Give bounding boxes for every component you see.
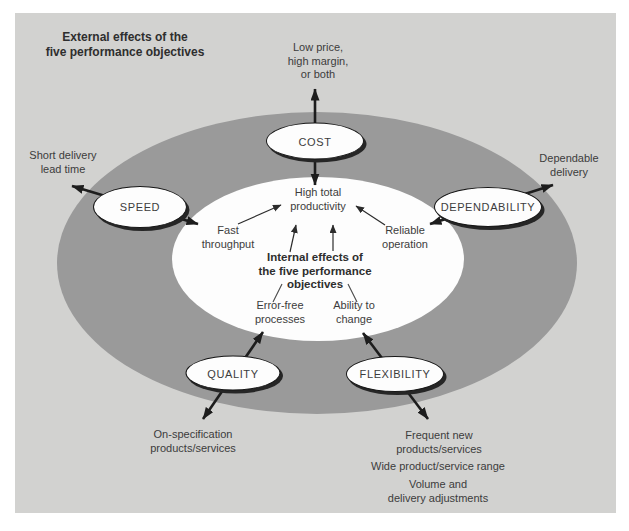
speed-external-label: Short delivery lead time: [29, 149, 96, 176]
dependability-oval-label: DEPENDABILITY: [441, 201, 536, 213]
speed-internal-label: Fast throughput: [202, 224, 255, 251]
flexibility-oval-label: FLEXIBILITY: [360, 368, 431, 380]
quality-oval: QUALITY: [186, 356, 281, 391]
internal-effects-title: Internal effects of the five performance…: [258, 251, 371, 292]
quality-internal-label: Error-free processes: [255, 299, 305, 326]
flexibility-external-label-3: Volume and delivery adjustments: [388, 478, 488, 505]
quality-external-label: On-specification products/services: [150, 428, 236, 455]
flexibility-internal-label: Ability to change: [333, 299, 375, 326]
flexibility-external-label: Frequent new products/services: [396, 429, 482, 456]
cost-oval: COST: [266, 123, 364, 160]
dependability-external-label: Dependable delivery: [539, 152, 598, 179]
diagram-canvas: External effects of the five performance…: [0, 0, 629, 531]
dependability-internal-label: Reliable operation: [382, 224, 428, 251]
speed-oval: SPEED: [93, 186, 187, 228]
quality-oval-label: QUALITY: [207, 367, 258, 379]
cost-oval-label: COST: [299, 135, 332, 147]
cost-external-label: Low price, high margin, or both: [288, 41, 349, 82]
flexibility-oval: FLEXIBILITY: [346, 356, 444, 392]
diagram-title: External effects of the five performance…: [46, 30, 205, 60]
dependability-oval: DEPENDABILITY: [434, 187, 542, 227]
speed-oval-label: SPEED: [120, 201, 160, 213]
flexibility-external-label-2: Wide product/service range: [371, 460, 505, 474]
high-total-productivity-label: High total productivity: [290, 186, 346, 213]
